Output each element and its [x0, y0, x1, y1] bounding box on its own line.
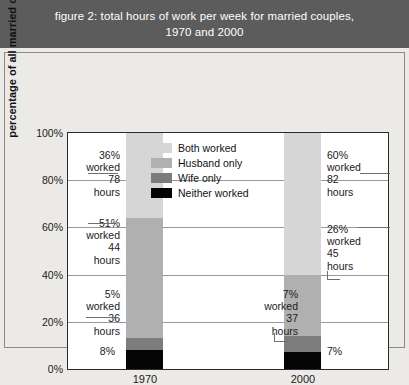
y-axis-title: percentage of all married couples [3, 0, 21, 145]
leader-1970-husband [88, 223, 116, 224]
annotation-2000-husband-hours: 45 [327, 247, 339, 259]
annotation-2000-husband-worked: worked [327, 235, 361, 247]
legend-swatch-wife-only-icon [151, 173, 172, 183]
leader-2000-husband [358, 227, 390, 228]
leader-1970-both [88, 173, 118, 174]
annotation-2000-both-unit: hours [327, 186, 353, 198]
bar-1970-seg-husband[interactable] [126, 218, 163, 338]
annotation-1970-both-hours: 78 [108, 173, 120, 185]
annotation-2000-wife-hours: 37 [286, 312, 298, 324]
annotation-1970-neither: 8% [60, 345, 115, 357]
leader-2000-both [360, 173, 390, 174]
bar-2000-seg-wife[interactable] [284, 336, 321, 353]
figure-title-line2: 1970 and 2000 [165, 26, 243, 38]
annotation-2000-both-pct: 60% [327, 149, 348, 161]
annotation-2000-neither-pct: 7% [327, 345, 342, 357]
figure-title-line1: figure 2: total hours of work per week f… [55, 10, 354, 22]
legend-item-both-worked[interactable]: Both worked [151, 141, 249, 154]
annotation-2000-both-hours: 82 [327, 173, 339, 185]
annotation-1970-wife-pct: 5% [105, 288, 120, 300]
bar-1970-seg-neither[interactable] [126, 350, 163, 369]
figure-title-banner: figure 2: total hours of work per week f… [0, 0, 409, 48]
annotation-2000-neither: 7% [327, 345, 382, 357]
bar-2000-seg-both[interactable] [284, 133, 321, 275]
x-tick-label-2000: 2000 [263, 373, 343, 385]
y-tick-label-40: 40% [42, 269, 63, 281]
leader-elbow-2000-wife [274, 333, 288, 342]
annotation-2000-wife-worked: worked [264, 300, 298, 312]
annotation-1970-both-unit: hours [94, 186, 120, 198]
y-tick-label-0: 0% [48, 363, 63, 375]
annotation-2000-wife-pct: 7% [283, 288, 298, 300]
annotation-1970-neither-pct: 8% [100, 345, 115, 357]
legend-item-husband-only[interactable]: Husband only [151, 156, 249, 169]
annotation-1970-both-pct: 36% [99, 149, 120, 161]
annotation-2000-both-worked: worked [327, 161, 361, 173]
y-tick-label-100: 100% [36, 127, 63, 139]
legend-label-neither-worked: Neither worked [178, 187, 249, 199]
annotation-1970-husband-unit: hours [94, 254, 120, 266]
annotation-1970-husband: 51% worked 44 hours [20, 217, 120, 266]
chart-panel: percentage of all married couples 0% 20%… [4, 52, 405, 348]
annotation-2000-husband: 26% worked 45 hours [327, 223, 409, 272]
figure-title: figure 2: total hours of work per week f… [15, 8, 394, 40]
annotation-1970-wife-worked: worked [86, 300, 120, 312]
annotation-2000-husband-pct: 26% [327, 223, 348, 235]
plot-area: 0% 20% 40% 60% 80% 100% [67, 132, 389, 370]
legend-swatch-neither-worked-icon [151, 188, 172, 198]
annotation-2000-husband-unit: hours [327, 260, 353, 272]
legend-swatch-husband-only-icon [151, 158, 172, 168]
leader-1970-wife [86, 317, 118, 318]
annotation-1970-wife-hours: 36 [108, 312, 120, 324]
legend: Both worked Husband only Wife only Neith… [151, 141, 249, 199]
annotation-2000-wife: 7% worked 37 hours [218, 288, 298, 337]
legend-item-wife-only[interactable]: Wife only [151, 171, 249, 184]
legend-label-both-worked: Both worked [178, 142, 236, 154]
annotation-1970-husband-hours: 44 [108, 241, 120, 253]
legend-label-wife-only: Wife only [178, 172, 221, 184]
annotation-1970-wife: 5% worked 36 hours [20, 288, 120, 337]
leader-elbow-2000-husband [327, 271, 340, 280]
legend-item-neither-worked[interactable]: Neither worked [151, 186, 249, 199]
annotation-1970-husband-worked: worked [86, 229, 120, 241]
legend-label-husband-only: Husband only [178, 157, 242, 169]
bar-2000-seg-neither[interactable] [284, 352, 321, 369]
annotation-1970-both-worked: worked [86, 161, 120, 173]
legend-swatch-both-worked-icon [151, 143, 172, 153]
x-tick-label-1970: 1970 [105, 373, 185, 385]
bar-1970-seg-wife[interactable] [126, 338, 163, 350]
annotation-1970-wife-unit: hours [94, 325, 120, 337]
